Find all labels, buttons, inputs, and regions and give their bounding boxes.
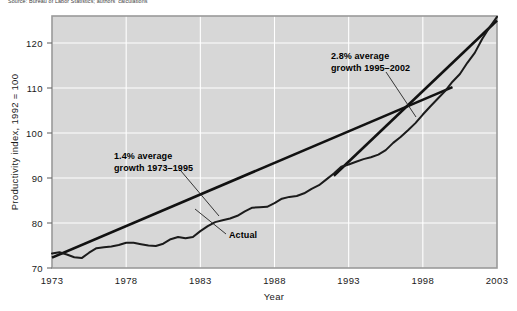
- x-tick-label-1993: 1993: [337, 275, 360, 286]
- x-tick-label-1998: 1998: [411, 275, 434, 286]
- y-tick-label-90: 90: [32, 173, 43, 184]
- chart-canvas: 708090100110120 197319781983198819931998…: [0, 0, 517, 311]
- y-tick-label-80: 80: [32, 218, 43, 229]
- x-axis-ticks: 1973197819831988199319982003: [41, 275, 509, 286]
- y-axis-title: Productivity index, 1992 = 100: [9, 74, 20, 211]
- y-tick-label-100: 100: [26, 128, 43, 139]
- x-tick-label-1978: 1978: [115, 275, 138, 286]
- x-tick-label-1983: 1983: [189, 275, 212, 286]
- y-axis-ticks: 708090100110120: [26, 38, 52, 274]
- x-tick-label-2003: 2003: [486, 275, 509, 286]
- productivity-chart-figure: Source: Bureau of Labor Statistics; auth…: [0, 0, 517, 311]
- y-tick-label-110: 110: [27, 83, 43, 94]
- source-note: Source: Bureau of Labor Statistics; auth…: [8, 0, 148, 5]
- annotation-actual-label: Actual: [229, 230, 257, 240]
- x-tick-label-1988: 1988: [263, 275, 286, 286]
- y-tick-label-120: 120: [26, 38, 43, 49]
- x-axis-title: Year: [264, 291, 284, 302]
- x-tick-label-1973: 1973: [41, 275, 64, 286]
- y-tick-label-70: 70: [32, 263, 43, 274]
